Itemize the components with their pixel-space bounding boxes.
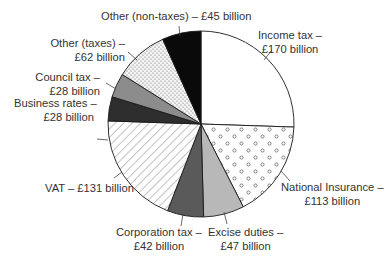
label-value: £113 billion [281, 195, 384, 209]
label-text: Other (non-taxes) – £45 billion [101, 10, 252, 24]
leader-vat [114, 172, 122, 178]
label-income-tax: Income tax – £170 billion [258, 29, 322, 56]
label-value: £47 billion [208, 240, 283, 254]
label-text: Business rates – [14, 97, 94, 111]
label-other-non-taxes: Other (non-taxes) – £45 billion [101, 10, 252, 24]
label-other-taxes: Other (taxes) – £62 billion [40, 37, 125, 64]
leader-other-taxes [128, 52, 137, 60]
label-value: £42 billion [116, 240, 202, 254]
label-text: Corporation tax – [116, 226, 202, 240]
leader-business-rates [97, 139, 108, 140]
label-text: Excise duties – [208, 226, 283, 240]
label-text: Council tax – [20, 71, 100, 85]
label-corporation: Corporation tax – £42 billion [116, 226, 202, 253]
leader-national-insurance [281, 171, 290, 181]
label-council-tax: Council tax – £28 billion [20, 71, 100, 98]
label-national-insurance: National Insurance – £113 billion [281, 181, 384, 208]
label-text: Income tax – [258, 29, 322, 43]
label-value: £28 billion [20, 85, 100, 99]
label-business-rates: Business rates – £28 billion [14, 97, 94, 124]
label-text: Other (taxes) – [40, 37, 125, 51]
label-value: £62 billion [40, 51, 125, 65]
leader-corporation [181, 214, 183, 226]
label-text: National Insurance – [281, 181, 384, 195]
label-text: VAT – £131 billion [45, 182, 134, 196]
label-vat: VAT – £131 billion [45, 182, 134, 196]
label-excise: Excise duties – £47 billion [208, 226, 283, 253]
label-value: £28 billion [14, 111, 94, 125]
leader-council-tax [106, 83, 116, 89]
label-value: £170 billion [258, 43, 322, 57]
